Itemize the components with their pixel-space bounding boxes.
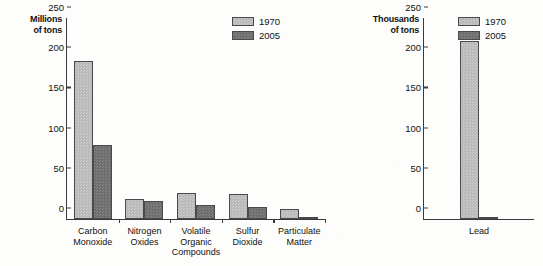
y-tick-mark	[424, 6, 428, 7]
y-tick: 100	[405, 122, 424, 133]
bar-group	[67, 18, 119, 219]
y-tick-label: 150	[405, 82, 424, 93]
legend-label: 1970	[259, 16, 280, 27]
legend-item-2005[interactable]: 2005	[232, 30, 280, 41]
chart-thousands-of-tons: Thousands of tons 050100150200250 Lead 1…	[355, 0, 543, 266]
y-tick-label: 250	[48, 2, 67, 13]
plot-area: 050100150200250 Carbon MonoxideNitrogen …	[66, 18, 325, 220]
y-tick-label: 100	[405, 122, 424, 133]
legend-label: 1970	[485, 16, 506, 27]
y-tick: 50	[410, 162, 424, 173]
bar-2005-nitrogen-oxides[interactable]	[144, 201, 163, 219]
bar-group	[222, 18, 274, 219]
bar-1970-nitrogen-oxides[interactable]	[125, 199, 144, 219]
y-axis-title: Thousands of tons	[357, 14, 419, 36]
y-tick: 250	[405, 2, 424, 13]
x-axis-label: Particulate Matter	[266, 226, 332, 247]
y-tick: 200	[48, 42, 67, 53]
bar-2005-carbon-monoxide[interactable]	[93, 145, 112, 219]
y-tick: 100	[48, 122, 67, 133]
legend: 19702005	[232, 16, 280, 41]
chart-millions-of-tons: Millions of tons 050100150200250 Carbon …	[0, 0, 340, 266]
y-tick-label: 200	[405, 42, 424, 53]
bars-container	[67, 18, 325, 219]
x-tick-mark	[325, 219, 326, 223]
bar-1970-sulfur-dioxide[interactable]	[229, 194, 248, 219]
y-tick: 150	[48, 82, 67, 93]
bar-2005-lead[interactable]	[479, 217, 498, 219]
legend-label: 2005	[259, 30, 280, 41]
bar-1970-carbon-monoxide[interactable]	[74, 61, 93, 219]
legend: 19702005	[458, 16, 506, 41]
y-tick-label: 150	[48, 82, 67, 93]
bar-group	[119, 18, 171, 219]
y-tick: 150	[405, 82, 424, 93]
y-tick-mark	[67, 6, 71, 7]
bars-container	[424, 18, 534, 219]
y-tick-label: 250	[405, 2, 424, 13]
legend-label: 2005	[485, 30, 506, 41]
bar-1970-lead[interactable]	[460, 41, 479, 219]
y-tick: 200	[405, 42, 424, 53]
legend-swatch-2005	[458, 31, 480, 40]
x-axis-label: Lead	[446, 226, 512, 237]
y-tick-label: 100	[48, 122, 67, 133]
y-tick-label: 0	[416, 203, 424, 214]
y-tick: 0	[59, 203, 67, 214]
x-tick-mark	[273, 219, 274, 223]
legend-swatch-1970	[458, 17, 480, 26]
x-tick-mark	[222, 219, 223, 223]
bar-group	[273, 18, 325, 219]
y-tick-label: 200	[48, 42, 67, 53]
y-tick-label: 50	[53, 162, 67, 173]
y-axis-title: Millions of tons	[2, 14, 62, 36]
y-tick: 0	[416, 203, 424, 214]
y-tick-label: 50	[410, 162, 424, 173]
y-tick: 50	[53, 162, 67, 173]
legend-swatch-2005	[232, 31, 254, 40]
legend-item-1970[interactable]: 1970	[458, 16, 506, 27]
bar-2005-sulfur-dioxide[interactable]	[248, 207, 267, 219]
bar-2005-volatile-organic-compounds[interactable]	[196, 205, 215, 219]
x-tick-mark	[119, 219, 120, 223]
plot-area: 050100150200250 Lead	[423, 18, 534, 220]
legend-item-2005[interactable]: 2005	[458, 30, 506, 41]
bar-group	[170, 18, 222, 219]
legend-item-1970[interactable]: 1970	[232, 16, 280, 27]
legend-swatch-1970	[232, 17, 254, 26]
bar-group	[424, 18, 534, 219]
y-tick: 250	[48, 2, 67, 13]
x-tick-mark	[170, 219, 171, 223]
bar-1970-particulate-matter[interactable]	[280, 209, 299, 219]
bar-1970-volatile-organic-compounds[interactable]	[177, 193, 196, 219]
bar-2005-particulate-matter[interactable]	[299, 217, 318, 219]
y-tick-label: 0	[59, 203, 67, 214]
